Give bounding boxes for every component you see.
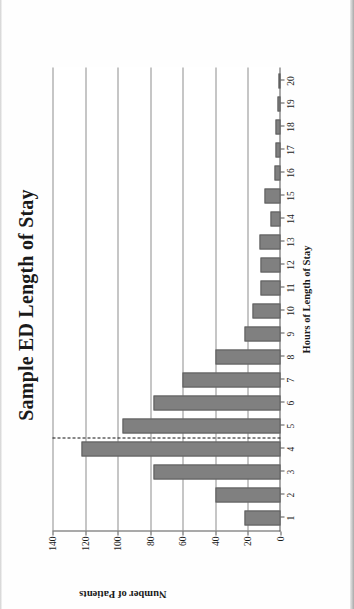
x-tick-label: 20 (285, 76, 295, 86)
bar (274, 165, 281, 179)
x-tick-label: 8 (285, 354, 295, 359)
x-tick-label: 17 (285, 145, 295, 155)
y-tick-label: 140 (47, 536, 57, 550)
y-tick-label: 60 (177, 536, 187, 546)
bar (215, 487, 280, 501)
x-tick-mark (280, 425, 284, 426)
x-tick-label: 2 (285, 492, 295, 497)
x-tick-mark (280, 126, 284, 127)
y-tick-label: 0 (275, 536, 285, 541)
y-tick-label: 20 (242, 536, 252, 546)
x-tick-mark (280, 517, 284, 518)
rotated-figure-canvas: Sample ED Length of Stay 020406080100120… (0, 0, 354, 609)
x-tick-mark (280, 448, 284, 449)
x-tick-label: 16 (285, 168, 295, 178)
x-tick-mark (280, 218, 284, 219)
bar-slot: 17 (52, 138, 280, 161)
x-tick-label: 14 (285, 214, 295, 224)
y-tick-label: 120 (80, 536, 90, 550)
bar-slot: 11 (52, 276, 280, 299)
scanned-page: Sample ED Length of Stay 020406080100120… (0, 0, 354, 609)
x-tick-mark (280, 149, 284, 150)
x-tick-mark (280, 471, 284, 472)
x-tick-mark (280, 287, 284, 288)
bar-slot: 8 (52, 345, 280, 368)
x-tick-label: 9 (285, 331, 295, 336)
bar-slot: 6 (52, 391, 280, 414)
bar (264, 188, 280, 202)
x-tick-mark (280, 402, 284, 403)
y-tick-mark (85, 531, 86, 535)
x-tick-label: 7 (285, 377, 295, 382)
median-reference-line (52, 437, 280, 438)
bar (275, 119, 280, 133)
x-tick-mark (280, 80, 284, 81)
bar-slot: 19 (52, 92, 280, 115)
y-tick-mark (52, 531, 53, 535)
bar-slot: 14 (52, 207, 280, 230)
bar-slot: 18 (52, 115, 280, 138)
x-tick-label: 13 (285, 237, 295, 247)
y-tick-mark (280, 531, 281, 535)
x-tick-mark (280, 172, 284, 173)
bar-slot: 7 (52, 368, 280, 391)
bar-slot: 12 (52, 253, 280, 276)
x-tick-label: 6 (285, 400, 295, 405)
bar (275, 142, 280, 156)
x-tick-mark (280, 333, 284, 334)
y-tick-label: 80 (145, 536, 155, 546)
y-tick-mark (182, 531, 183, 535)
bar-series: 1234567891011121314151617181920 (52, 67, 280, 531)
bar (81, 441, 280, 455)
x-tick-label: 5 (285, 423, 295, 428)
bar-slot: 15 (52, 184, 280, 207)
y-tick-mark (150, 531, 151, 535)
chart-title: Sample ED Length of Stay (14, 0, 37, 609)
x-axis-title: Hours of Length of Stay (300, 67, 311, 531)
bar (270, 211, 280, 225)
y-tick-mark (117, 531, 118, 535)
bar (244, 510, 280, 524)
bar-slot: 10 (52, 299, 280, 322)
x-tick-label: 15 (285, 191, 295, 201)
y-axis-title: Number of Patients (79, 588, 166, 599)
bar (260, 257, 280, 271)
y-tick-mark (247, 531, 248, 535)
x-tick-mark (280, 103, 284, 104)
bar (244, 326, 280, 340)
bar-slot: 5 (52, 414, 280, 437)
bar (182, 372, 280, 386)
y-tick-label: 40 (210, 536, 220, 546)
x-tick-label: 1 (285, 515, 295, 520)
bar (259, 234, 280, 248)
x-tick-label: 18 (285, 122, 295, 132)
x-tick-mark (280, 195, 284, 196)
x-tick-mark (280, 241, 284, 242)
x-tick-label: 11 (285, 283, 295, 292)
bar-slot: 13 (52, 230, 280, 253)
x-tick-label: 3 (285, 469, 295, 474)
x-tick-mark (280, 310, 284, 311)
x-tick-label: 12 (285, 260, 295, 270)
plot-area: 020406080100120140 123456789101112131415… (52, 67, 280, 531)
bar-slot: 16 (52, 161, 280, 184)
y-tick-mark (215, 531, 216, 535)
figure: Sample ED Length of Stay 020406080100120… (0, 0, 354, 609)
x-tick-mark (280, 356, 284, 357)
bar-slot: 9 (52, 322, 280, 345)
x-tick-mark (280, 379, 284, 380)
bar (153, 464, 280, 478)
x-tick-mark (280, 494, 284, 495)
bar (252, 303, 280, 317)
bar (277, 96, 280, 110)
bar (260, 280, 280, 294)
bar (153, 395, 280, 409)
x-tick-label: 4 (285, 446, 295, 451)
bar-slot: 2 (52, 483, 280, 506)
bar (215, 349, 280, 363)
bar (122, 418, 280, 432)
x-tick-label: 19 (285, 99, 295, 109)
bar-slot: 1 (52, 506, 280, 529)
bar-slot: 4 (52, 437, 280, 460)
bar-slot: 3 (52, 460, 280, 483)
